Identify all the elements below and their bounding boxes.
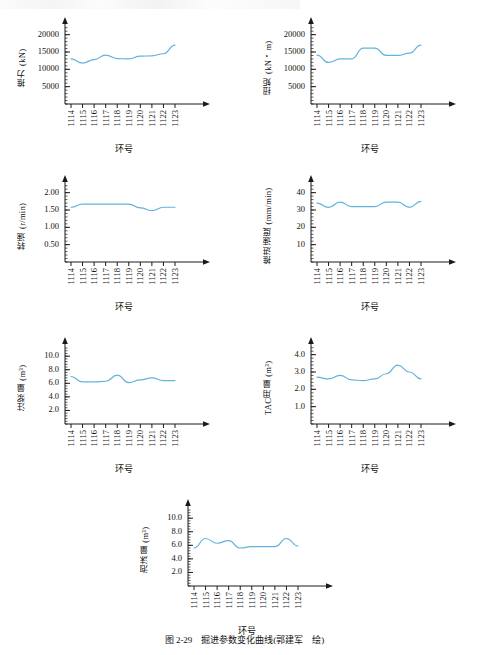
x-tick-label: 1121 xyxy=(270,592,280,609)
x-axis-label: 环号 xyxy=(361,462,379,475)
x-axis-label: 环号 xyxy=(115,300,133,313)
y-tick-label: 15000 xyxy=(284,46,305,56)
x-tick-label: 1123 xyxy=(170,268,180,285)
x-tick-label: 1119 xyxy=(370,110,380,126)
x-tick-label: 1118 xyxy=(358,430,368,446)
data-series-foam-volume xyxy=(194,539,298,549)
x-axis-label: 环号 xyxy=(115,142,133,155)
x-tick-label: 1114 xyxy=(189,592,199,608)
x-tick-label: 1118 xyxy=(112,268,122,284)
x-tick-label: 1122 xyxy=(158,268,168,285)
chart-thrust: 5000100001500020000111411151116111711181… xyxy=(2,10,234,162)
y-tick-label: 1.0 xyxy=(294,401,305,411)
x-tick-label: 1119 xyxy=(370,430,380,446)
x-tick-label: 1121 xyxy=(393,430,403,447)
y-tick-label: 2.0 xyxy=(171,566,182,576)
x-tick-label: 1120 xyxy=(381,110,391,127)
y-tick-label: 4.0 xyxy=(48,391,59,401)
x-tick-label: 1114 xyxy=(66,430,76,446)
x-tick-label: 1118 xyxy=(235,592,245,608)
y-tick-label: 5000 xyxy=(288,81,305,91)
x-tick-label: 1123 xyxy=(170,430,180,447)
x-tick-label: 1121 xyxy=(393,268,403,285)
y-tick-label: 10 xyxy=(297,239,306,249)
y-tick-label: 4.0 xyxy=(294,349,305,359)
chart-torque: 5000100001500020000111411151116111711181… xyxy=(248,10,480,162)
y-tick-label: 20 xyxy=(297,221,306,231)
y-tick-label: 40 xyxy=(297,187,306,197)
data-series-rotation-speed xyxy=(71,204,175,211)
data-series-torque xyxy=(317,45,421,62)
y-tick-label: 1.00 xyxy=(44,221,59,231)
x-tick-label: 1114 xyxy=(66,268,76,284)
x-tick-label: 1120 xyxy=(381,268,391,285)
plot-area-rotation-speed xyxy=(2,168,234,320)
x-tick-label: 1114 xyxy=(312,430,322,446)
x-tick-label: 1123 xyxy=(293,592,303,609)
chart-grout-volume: 2.04.06.08.010.0111411151116111711181119… xyxy=(2,330,234,482)
x-tick-label: 1117 xyxy=(347,110,357,126)
y-tick-label: 2.0 xyxy=(294,383,305,393)
x-tick-label: 1115 xyxy=(78,430,88,446)
plot-area-advance-speed xyxy=(248,168,480,320)
x-axis-label: 环号 xyxy=(361,300,379,313)
x-tick-label: 1122 xyxy=(404,110,414,127)
x-tick-label: 1114 xyxy=(66,110,76,126)
y-tick-label: 30 xyxy=(297,204,306,214)
y-axis-label: 扭矩 (kN・m) xyxy=(262,28,274,108)
x-tick-label: 1121 xyxy=(393,110,403,127)
x-axis-label: 环号 xyxy=(115,462,133,475)
y-tick-label: 8.0 xyxy=(171,526,182,536)
plot-area-tac-consumption xyxy=(248,330,480,482)
x-tick-label: 1120 xyxy=(258,592,268,609)
scan-artifact xyxy=(0,0,300,9)
chart-tac-consumption: 1.02.03.04.01114111511161117111811191120… xyxy=(248,330,480,482)
x-tick-label: 1115 xyxy=(201,592,211,608)
x-tick-label: 1116 xyxy=(89,430,99,446)
chart-rotation-speed: 0.501.001.502.00111411151116111711181119… xyxy=(2,168,234,320)
y-axis-label: 转速 (r/min) xyxy=(16,186,28,266)
x-tick-label: 1118 xyxy=(358,268,368,284)
x-tick-label: 1122 xyxy=(158,110,168,127)
x-tick-label: 1122 xyxy=(404,430,414,447)
y-axis-label: TAC用量 (m³) xyxy=(262,348,274,428)
x-tick-label: 1119 xyxy=(124,268,134,284)
x-tick-label: 1116 xyxy=(89,110,99,126)
plot-area-foam-volume xyxy=(125,492,357,644)
x-tick-label: 1117 xyxy=(347,430,357,446)
y-tick-label: 6.0 xyxy=(171,539,182,549)
x-tick-label: 1123 xyxy=(416,430,426,447)
x-tick-label: 1116 xyxy=(335,268,345,284)
x-tick-label: 1118 xyxy=(112,110,122,126)
y-tick-label: 20000 xyxy=(38,29,59,39)
y-tick-label: 2.00 xyxy=(44,187,59,197)
x-tick-label: 1120 xyxy=(381,430,391,447)
x-tick-label: 1116 xyxy=(335,430,345,446)
data-series-advance-speed xyxy=(317,201,421,207)
y-tick-label: 2.0 xyxy=(48,404,59,414)
data-series-thrust xyxy=(71,45,175,63)
y-tick-label: 5000 xyxy=(42,81,59,91)
x-tick-label: 1115 xyxy=(324,268,334,284)
y-axis-label: 推力 (kN) xyxy=(16,28,28,108)
data-series-grout-volume xyxy=(71,375,175,382)
y-tick-label: 10.0 xyxy=(167,512,182,522)
x-tick-label: 1115 xyxy=(78,268,88,284)
x-tick-label: 1122 xyxy=(158,430,168,447)
x-tick-label: 1120 xyxy=(135,430,145,447)
x-tick-label: 1120 xyxy=(135,110,145,127)
x-tick-label: 1117 xyxy=(101,430,111,446)
x-tick-label: 1123 xyxy=(170,110,180,127)
y-tick-label: 1.50 xyxy=(44,204,59,214)
x-tick-label: 1117 xyxy=(101,110,111,126)
x-tick-label: 1116 xyxy=(89,268,99,284)
chart-foam-volume: 2.04.06.08.010.0111411151116111711181119… xyxy=(125,492,357,644)
x-tick-label: 1123 xyxy=(416,110,426,127)
x-tick-label: 1118 xyxy=(112,430,122,446)
x-tick-label: 1118 xyxy=(358,110,368,126)
y-axis-label: 注浆量 (m³) xyxy=(16,348,28,428)
x-tick-label: 1114 xyxy=(312,268,322,284)
plot-area-grout-volume xyxy=(2,330,234,482)
y-tick-label: 10000 xyxy=(284,63,305,73)
y-axis-label: 泡沫量 (m³) xyxy=(139,510,151,590)
